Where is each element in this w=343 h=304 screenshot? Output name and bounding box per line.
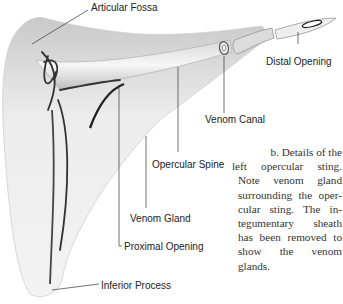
caption-line: surrounding the oper- (232, 188, 342, 202)
sting-tip (275, 18, 336, 39)
figure-caption: b. Details of the left opercular sting. … (232, 145, 342, 273)
label-articular-fossa: Articular Fossa (91, 2, 158, 14)
caption-line: glands. (232, 259, 342, 273)
caption-line: left opercular sting. (232, 159, 342, 173)
caption-line: b. Details of the (232, 145, 342, 159)
label-venom-canal: Venom Canal (205, 114, 265, 126)
venom-canal-lumen (222, 45, 226, 51)
label-distal-opening: Distal Opening (266, 56, 332, 68)
caption-line: cular sting. The in- (232, 202, 342, 216)
label-proximal-opening: Proximal Opening (124, 241, 203, 253)
caption-line: show the venom (232, 244, 342, 258)
label-inferior-process: Inferior Process (101, 280, 171, 292)
caption-line: has been removed to (232, 230, 342, 244)
label-venom-gland: Venom Gland (130, 213, 191, 225)
caption-line: tegumentary sheath (232, 216, 342, 230)
figure: Articular Fossa Distal Opening Venom Can… (0, 0, 343, 304)
caption-line: Note venom gland (232, 173, 342, 187)
label-opercular-spine: Opercular Spine (152, 159, 224, 171)
